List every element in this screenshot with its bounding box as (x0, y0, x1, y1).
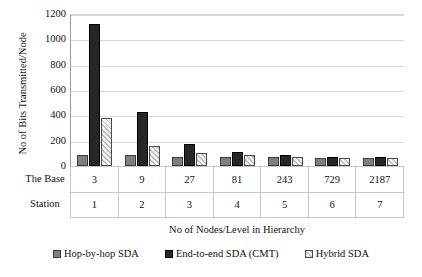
category-column: 92 (118, 167, 166, 217)
y-tick-label: 1200 (30, 9, 66, 19)
bar-0 (268, 157, 279, 166)
category-nodes-value: 3 (71, 167, 118, 192)
bar-2 (339, 158, 350, 166)
bar-group (309, 15, 357, 166)
bar-2 (292, 157, 303, 166)
bar-group (214, 15, 262, 166)
bar-group (166, 15, 214, 166)
category-column: 2435 (260, 167, 308, 217)
category-header-line: Station (20, 191, 70, 216)
bar-group (261, 15, 309, 166)
legend-item[interactable]: Hop-by-hop SDA (53, 248, 139, 259)
category-level-value: 7 (356, 192, 403, 218)
bar-0 (220, 157, 231, 167)
category-nodes-value: 2187 (356, 167, 403, 192)
bar-1 (89, 24, 100, 166)
category-nodes-value: 729 (309, 167, 356, 192)
plot-area (70, 14, 404, 166)
bar-1 (327, 157, 338, 167)
category-nodes-value: 9 (119, 167, 166, 192)
category-level-value: 6 (309, 192, 356, 218)
category-nodes-value: 243 (261, 167, 308, 192)
legend-swatch-icon (53, 250, 61, 258)
y-axis-title: No of Bits Transmitted/Node (17, 14, 28, 174)
legend-item[interactable]: Hybrid SDA (305, 248, 369, 259)
legend-label: Hop-by-hop SDA (64, 248, 139, 259)
y-tick-label: 400 (30, 110, 66, 120)
category-level-value: 2 (119, 192, 166, 218)
x-axis-title: No of Nodes/Level in Hierarchy (70, 224, 404, 235)
bar-group (71, 15, 119, 166)
category-nodes-value: 27 (166, 167, 213, 192)
bar-0 (363, 158, 374, 166)
category-column: 814 (213, 167, 261, 217)
bar-1 (375, 157, 386, 166)
bar-0 (77, 155, 88, 166)
category-row-header: The BaseStation (20, 166, 70, 216)
category-level-value: 4 (214, 192, 261, 218)
bar-groups (71, 15, 404, 166)
y-tick-label: 800 (30, 60, 66, 70)
category-columns: 31922738142435729621877 (70, 166, 404, 218)
bar-1 (137, 112, 148, 166)
bar-2 (101, 118, 112, 166)
category-column: 7296 (308, 167, 356, 217)
y-tick-label: 1000 (30, 34, 66, 44)
bar-2 (244, 155, 255, 166)
category-column: 273 (165, 167, 213, 217)
bar-0 (172, 157, 183, 167)
y-tick-label: 200 (30, 136, 66, 146)
y-tick-label: 600 (30, 85, 66, 95)
bar-group (119, 15, 167, 166)
bar-2 (387, 158, 398, 166)
category-level-value: 3 (166, 192, 213, 218)
bar-2 (149, 146, 160, 166)
category-table: The BaseStation 31922738142435729621877 (20, 166, 404, 216)
category-level-value: 5 (261, 192, 308, 218)
bar-0 (125, 155, 136, 166)
category-level-value: 1 (71, 192, 118, 218)
bar-1 (232, 152, 243, 166)
bar-0 (315, 158, 326, 166)
y-axis-tick-labels: 120010008006004002000 (30, 14, 66, 166)
bar-1 (280, 155, 291, 166)
bar-1 (184, 144, 195, 166)
chart-legend: Hop-by-hop SDAEnd-to-end SDA (CMT)Hybrid… (0, 248, 422, 259)
bar-2 (196, 153, 207, 166)
legend-item[interactable]: End-to-end SDA (CMT) (165, 248, 279, 259)
category-header-line: The Base (20, 166, 70, 191)
legend-swatch-icon (305, 250, 313, 258)
bar-group (356, 15, 404, 166)
category-column: 21877 (355, 167, 404, 217)
legend-swatch-icon (165, 250, 173, 258)
bar-chart: No of Bits Transmitted/Node 120010008006… (0, 0, 422, 277)
category-nodes-value: 81 (214, 167, 261, 192)
legend-label: Hybrid SDA (316, 248, 369, 259)
legend-label: End-to-end SDA (CMT) (176, 248, 279, 259)
category-column: 31 (70, 167, 118, 217)
